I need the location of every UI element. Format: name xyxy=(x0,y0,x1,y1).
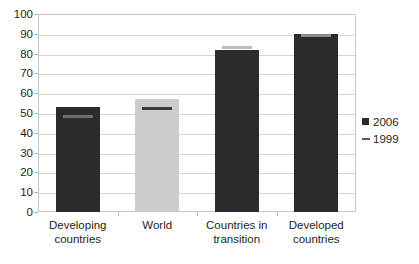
x-axis-category-label: Developedcountries xyxy=(277,218,357,246)
bar-2006 xyxy=(294,34,338,212)
y-tick-label: 30 xyxy=(0,147,33,158)
category-label-line: Countries in xyxy=(197,218,277,232)
y-tick-label: 90 xyxy=(0,28,33,39)
legend-item[interactable]: 2006 xyxy=(362,113,418,130)
y-tick-label: 70 xyxy=(0,68,33,79)
x-tick-mark xyxy=(277,212,278,216)
marker-1999 xyxy=(222,46,252,49)
bar-group xyxy=(294,14,338,212)
x-tick-mark xyxy=(118,212,119,216)
bar-2006 xyxy=(135,99,179,212)
marker-1999 xyxy=(63,115,93,118)
y-tick-mark xyxy=(34,212,38,213)
marker-1999 xyxy=(301,34,331,37)
y-axis: 1009080706050403020100 xyxy=(0,14,33,212)
y-tick-label: 60 xyxy=(0,88,33,99)
y-tick-label: 0 xyxy=(0,207,33,218)
x-axis-category-labels: DevelopingcountriesWorldCountries intran… xyxy=(38,218,356,262)
category-label-line: World xyxy=(118,218,198,232)
category-label-line: countries xyxy=(277,232,357,246)
bar-2006 xyxy=(215,50,259,212)
bar-2006 xyxy=(56,107,100,212)
marker-1999 xyxy=(142,107,172,110)
bar-group xyxy=(135,14,179,212)
legend: 20061999 xyxy=(362,113,418,147)
y-tick-label: 20 xyxy=(0,167,33,178)
category-label-line: Developed xyxy=(277,218,357,232)
x-axis-category-label: Countries intransition xyxy=(197,218,277,246)
y-tick-label: 40 xyxy=(0,127,33,138)
legend-square-icon xyxy=(362,118,369,125)
y-tick-label: 80 xyxy=(0,48,33,59)
x-tick-mark xyxy=(197,212,198,216)
legend-label: 2006 xyxy=(373,116,399,128)
y-tick-label: 100 xyxy=(0,9,33,20)
legend-label: 1999 xyxy=(373,133,399,145)
bar-group xyxy=(215,14,259,212)
bar-group xyxy=(56,14,100,212)
category-label-line: Developing xyxy=(38,218,118,232)
legend-dash-icon xyxy=(362,138,370,140)
category-label-line: countries xyxy=(38,232,118,246)
category-label-line: transition xyxy=(197,232,277,246)
legend-item[interactable]: 1999 xyxy=(362,130,418,147)
bar-chart: 1009080706050403020100 Developingcountri… xyxy=(0,0,419,264)
y-tick-label: 50 xyxy=(0,108,33,119)
y-tick-label: 10 xyxy=(0,187,33,198)
x-axis-category-label: Developingcountries xyxy=(38,218,118,246)
x-axis-category-label: World xyxy=(118,218,198,232)
bars-layer xyxy=(38,14,356,212)
